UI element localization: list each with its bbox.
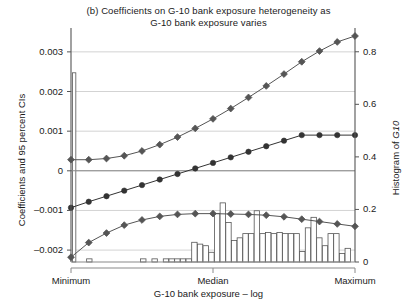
histogram-bars bbox=[72, 73, 350, 262]
x-tick-label: Minimum bbox=[21, 275, 121, 286]
x-axis-label: G-10 bank exposure – log bbox=[0, 288, 417, 299]
y-tick-label-left: 0.001 bbox=[12, 125, 63, 136]
y-tick-label-left: –0.001 bbox=[12, 204, 63, 215]
y-tick-label-right: 0.8 bbox=[363, 46, 376, 57]
y-tick-label-left: 0 bbox=[12, 165, 63, 176]
y-tick-label-left: 0.003 bbox=[12, 46, 63, 57]
y-tick-label-left: –0.002 bbox=[12, 244, 63, 255]
y-tick-label-right: 0.2 bbox=[363, 203, 376, 214]
chart-figure: (b) Coefficients on G-10 bank exposure h… bbox=[0, 0, 417, 307]
x-tick-label: Maximum bbox=[305, 275, 405, 286]
y-tick-label-right: 0.4 bbox=[363, 151, 376, 162]
y-tick-label-right: 0 bbox=[363, 256, 368, 267]
y-axis-label-right-variable: G10 bbox=[390, 121, 401, 139]
y-tick-label-left: 0.002 bbox=[12, 86, 63, 97]
y-axis-label-right: Histogram of G10 bbox=[390, 58, 401, 258]
chart-title-line-2: G-10 bank exposure varies bbox=[0, 17, 417, 29]
y-axis-label-right-text: Histogram of bbox=[390, 139, 401, 196]
chart-title-line-1: (b) Coefficients on G-10 bank exposure h… bbox=[0, 5, 417, 17]
x-tick-label: Median bbox=[163, 275, 263, 286]
y-tick-label-right: 0.6 bbox=[363, 98, 376, 109]
